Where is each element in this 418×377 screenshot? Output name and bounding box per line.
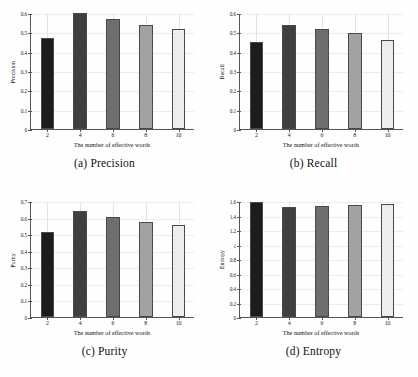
panel-entropy-ytick-mark bbox=[237, 304, 241, 305]
panel-recall-ytick-mark bbox=[237, 111, 241, 112]
panel-entropy-caption: (d)Entropy bbox=[209, 345, 418, 357]
panel-recall-ytick-mark bbox=[237, 33, 241, 34]
panel-recall-caption: (b)Recall bbox=[209, 157, 418, 169]
panel-recall-caption-text: Recall bbox=[307, 157, 338, 169]
panel-entropy-ytick-label: 1.4 bbox=[230, 214, 236, 220]
panel-entropy-ylabel: Entropy bbox=[217, 202, 227, 318]
panel-entropy-bar bbox=[381, 204, 395, 317]
panel-entropy-xtick-label: 4 bbox=[288, 320, 291, 326]
panel-purity-ytick-label: 0.4 bbox=[21, 249, 27, 255]
panel-precision: 00.10.20.30.40.50.6246810PrecisionThe nu… bbox=[0, 0, 209, 188]
panel-entropy-ytick-label: 1.2 bbox=[230, 228, 236, 234]
panel-entropy-ylabel-text: Entropy bbox=[219, 250, 225, 269]
panel-purity-xtick-label: 2 bbox=[46, 320, 49, 326]
panel-purity-caption-index: (c) bbox=[82, 345, 95, 357]
panel-recall-xtick-label: 8 bbox=[353, 132, 356, 138]
panel-entropy-bar bbox=[250, 202, 264, 317]
panel-entropy-ytick-mark bbox=[237, 318, 241, 319]
panel-precision-ytick-label: 0.6 bbox=[21, 11, 27, 17]
panel-entropy-bar bbox=[282, 207, 296, 317]
panel-purity-ytick-mark bbox=[28, 301, 32, 302]
panel-precision-ytick-label: 0.3 bbox=[21, 69, 27, 75]
panel-precision-bar bbox=[41, 38, 55, 129]
panel-entropy-bar bbox=[315, 206, 329, 317]
panel-purity-bar bbox=[106, 217, 120, 317]
panel-purity-ytick-label: 0.6 bbox=[21, 216, 27, 222]
panel-entropy-ytick-mark bbox=[237, 246, 241, 247]
panel-purity-ylabel-text: Purity bbox=[10, 253, 16, 268]
panel-entropy-ytick-label: 0.2 bbox=[230, 301, 236, 307]
panel-purity-bar bbox=[139, 222, 153, 317]
panel-recall-ylabel: Recall bbox=[217, 14, 227, 130]
panel-precision-ytick-mark bbox=[28, 33, 32, 34]
panel-precision-ytick-mark bbox=[28, 130, 32, 131]
panel-purity-ytick-label: 0.5 bbox=[21, 232, 27, 238]
panel-recall-ytick-mark bbox=[237, 72, 241, 73]
panel-precision-bar bbox=[172, 29, 186, 129]
panel-precision-caption: (a)Precision bbox=[0, 157, 209, 169]
panel-precision-ytick-label: 0.1 bbox=[21, 108, 27, 114]
panel-recall-ytick-mark bbox=[237, 53, 241, 54]
panel-recall-bar bbox=[250, 42, 264, 129]
panel-purity-xlabel: The number of effective words bbox=[30, 329, 194, 336]
panel-precision-bar bbox=[73, 13, 87, 129]
panel-purity-xtick-label: 10 bbox=[176, 320, 182, 326]
panel-entropy-plot-area: 00.20.40.60.811.21.41.6246810 bbox=[239, 202, 403, 318]
panel-recall-plot-area: 00.10.20.30.40.50.6246810 bbox=[239, 14, 403, 130]
panel-entropy-ytick-mark bbox=[237, 217, 241, 218]
panel-recall-xtick-label: 6 bbox=[321, 132, 324, 138]
panel-recall-xlabel: The number of effective words bbox=[239, 141, 403, 148]
panel-recall-ytick-mark bbox=[237, 130, 241, 131]
panel-precision-bar bbox=[139, 25, 153, 129]
panel-precision-xtick-label: 10 bbox=[176, 132, 182, 138]
panel-purity-bar bbox=[172, 225, 186, 317]
panel-purity: 00.10.20.30.40.50.60.7246810PurityThe nu… bbox=[0, 188, 209, 377]
panel-precision-xtick-label: 6 bbox=[112, 132, 115, 138]
panel-recall-xtick-label: 2 bbox=[255, 132, 258, 138]
panel-precision-bar bbox=[106, 19, 120, 129]
figure-four-panel-bar-charts: 00.10.20.30.40.50.6246810PrecisionThe nu… bbox=[0, 0, 418, 377]
panel-precision-ytick-label: 0.2 bbox=[21, 88, 27, 94]
panel-purity-bar bbox=[41, 232, 55, 318]
panel-purity-ytick-mark bbox=[28, 219, 32, 220]
panel-precision-axes: 00.10.20.30.40.50.6246810 bbox=[30, 14, 194, 130]
panel-entropy-bar bbox=[348, 205, 362, 317]
panel-recall-ytick-label: 0.6 bbox=[230, 11, 236, 17]
panel-entropy-xlabel: The number of effective words bbox=[239, 329, 403, 336]
panel-recall-xtick-label: 4 bbox=[288, 132, 291, 138]
panel-precision-plot-area: 00.10.20.30.40.50.6246810 bbox=[30, 14, 194, 130]
panel-entropy-ytick-label: 0.8 bbox=[230, 257, 236, 263]
panel-purity-ylabel: Purity bbox=[8, 202, 18, 318]
panel-precision-ytick-mark bbox=[28, 14, 32, 15]
panel-entropy-ytick-label: 0.6 bbox=[230, 272, 236, 278]
panel-precision-ytick-label: 0.4 bbox=[21, 50, 27, 56]
panel-precision-ytick-label: 0.5 bbox=[21, 30, 27, 36]
panel-purity-ytick-mark bbox=[28, 268, 32, 269]
panel-precision-ylabel-text: Precision bbox=[10, 61, 16, 83]
panel-recall-bar bbox=[348, 33, 362, 129]
panel-entropy-xtick-label: 8 bbox=[353, 320, 356, 326]
panel-purity-ytick-mark bbox=[28, 235, 32, 236]
panel-recall-ytick-label: 0.1 bbox=[230, 108, 236, 114]
panel-precision-ytick-mark bbox=[28, 111, 32, 112]
panel-purity-xtick-label: 4 bbox=[79, 320, 82, 326]
panel-purity-xtick-label: 6 bbox=[112, 320, 115, 326]
panel-recall-ytick-mark bbox=[237, 91, 241, 92]
panel-recall-bar bbox=[381, 40, 395, 130]
panel-grid: 00.10.20.30.40.50.6246810PrecisionThe nu… bbox=[0, 0, 418, 377]
panel-entropy-ytick-mark bbox=[237, 260, 241, 261]
panel-recall-bar bbox=[282, 25, 296, 129]
panel-recall-ytick-mark bbox=[237, 14, 241, 15]
panel-entropy-ytick-label: 1.6 bbox=[230, 199, 236, 205]
panel-recall-ytick-label: 0.4 bbox=[230, 50, 236, 56]
panel-precision-caption-text: Precision bbox=[90, 157, 135, 169]
panel-entropy-ytick-mark bbox=[237, 275, 241, 276]
panel-purity-axes: 00.10.20.30.40.50.60.7246810 bbox=[30, 202, 194, 318]
panel-recall-ytick-label: 0.2 bbox=[230, 88, 236, 94]
panel-entropy-caption-index: (d) bbox=[286, 345, 300, 357]
panel-entropy-ytick-mark bbox=[237, 289, 241, 290]
panel-purity-ytick-label: 0 bbox=[24, 315, 27, 321]
panel-precision-xtick-label: 8 bbox=[144, 132, 147, 138]
panel-entropy-caption-text: Entropy bbox=[303, 345, 341, 357]
panel-purity-ytick-mark bbox=[28, 252, 32, 253]
